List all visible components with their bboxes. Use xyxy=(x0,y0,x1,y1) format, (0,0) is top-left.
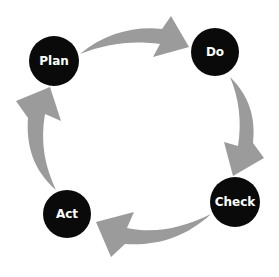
arrow-do-to-check xyxy=(224,77,264,176)
node-act: Act xyxy=(43,190,91,238)
node-do: Do xyxy=(191,28,239,76)
pdca-diagram: Plan Do Check Act xyxy=(0,0,279,277)
arrow-act-to-plan xyxy=(16,87,61,190)
node-check-label: Check xyxy=(215,195,256,209)
node-do-label: Do xyxy=(206,45,224,59)
node-act-label: Act xyxy=(56,207,78,221)
node-plan: Plan xyxy=(29,36,79,86)
arrow-plan-to-do xyxy=(80,16,189,57)
arrow-check-to-act xyxy=(96,212,211,257)
node-plan-label: Plan xyxy=(39,54,69,68)
node-check: Check xyxy=(210,177,260,227)
